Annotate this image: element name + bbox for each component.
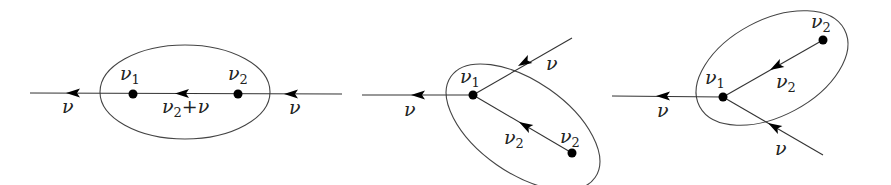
node-label: ν1	[705, 66, 725, 91]
panel-3: ν1 ν2 ν ν ν2	[612, 0, 867, 159]
edge-label-incoming: ν	[289, 96, 301, 118]
edge-label-incoming: ν	[775, 137, 787, 159]
edge-label-internal: ν2+ν	[162, 95, 210, 120]
node-dot	[469, 91, 478, 100]
edge-label-outgoing: ν	[404, 98, 416, 120]
arrow-down-left-icon	[516, 55, 533, 70]
node-label: ν1	[460, 65, 480, 90]
edge-label-internal: ν2	[504, 126, 524, 151]
edge-label-outgoing: ν	[62, 95, 74, 117]
node-dot	[129, 90, 138, 99]
node-label: ν2	[228, 62, 248, 87]
edge-label-incoming: ν	[546, 52, 558, 74]
arrow-up-left-icon	[517, 118, 534, 133]
panel-2: ν1 ν2 ν ν ν2	[362, 38, 621, 185]
edge-label-internal: ν2	[776, 70, 796, 95]
node-dot	[234, 90, 243, 99]
node-dot	[719, 93, 728, 102]
figure-canvas: ν1 ν2 ν ν ν2+ν ν1 ν2 ν ν ν2	[0, 0, 891, 185]
node-dot	[819, 36, 828, 45]
edge-label-outgoing: ν	[657, 99, 669, 121]
node-label: ν1	[120, 62, 140, 87]
node-label: ν2	[811, 10, 831, 35]
node-label: ν2	[560, 125, 580, 150]
panel-1: ν1 ν2 ν ν ν2+ν	[30, 45, 342, 139]
